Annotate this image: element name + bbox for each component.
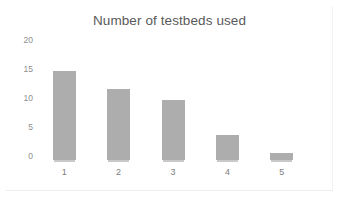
bar-1[interactable]: [53, 71, 76, 160]
bar-3[interactable]: [162, 100, 185, 160]
x-tick-mark: [54, 160, 75, 162]
y-tick-label: 10: [0, 94, 33, 103]
x-tick-label: 2: [99, 167, 139, 178]
bar-2[interactable]: [107, 89, 130, 160]
y-tick-label: 5: [0, 123, 33, 132]
x-tick-label: 5: [262, 167, 302, 178]
y-axis: 05101520: [0, 40, 33, 164]
bar-5[interactable]: [270, 153, 293, 160]
bar-slot: [53, 44, 76, 160]
x-tick-mark: [163, 160, 184, 162]
bar-slot: [107, 44, 130, 160]
chart-title: Number of testbeds used: [0, 13, 339, 28]
x-tick-mark: [108, 160, 129, 162]
bar-slot: [216, 44, 239, 160]
x-axis: 12345: [37, 160, 309, 190]
x-tick-label: 1: [44, 167, 84, 178]
bar-chart: Number of testbeds used 05101520 12345: [0, 0, 339, 198]
y-tick-label: 15: [0, 65, 33, 74]
plot-area: [37, 44, 309, 160]
y-tick-label: 20: [0, 36, 33, 45]
bar-slot: [270, 44, 293, 160]
bar-slot: [162, 44, 185, 160]
right-divider: [332, 6, 333, 190]
x-tick-label: 3: [153, 167, 193, 178]
x-tick-mark: [217, 160, 238, 162]
x-tick-mark: [271, 160, 292, 162]
bottom-divider: [6, 190, 333, 191]
x-tick-label: 4: [207, 167, 247, 178]
bar-4[interactable]: [216, 135, 239, 160]
y-tick-label: 0: [0, 152, 33, 161]
